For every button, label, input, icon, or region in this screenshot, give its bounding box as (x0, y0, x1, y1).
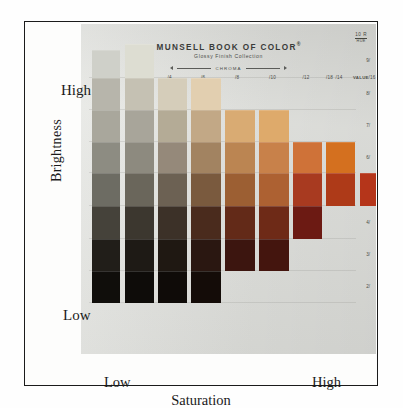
x-axis-title: Saturation (25, 392, 377, 408)
color-chip (191, 239, 221, 271)
color-chip (360, 173, 376, 206)
y-axis-title: Brightness (49, 119, 65, 182)
color-chip (158, 173, 187, 206)
color-chip (191, 78, 221, 110)
figure-frame: MUNSELL BOOK OF COLOR® Glossy Finish Col… (24, 21, 378, 386)
color-chip (125, 206, 154, 239)
color-chip (225, 173, 255, 206)
color-chip (259, 239, 289, 271)
color-chip (259, 173, 289, 206)
munsell-color-chart-figure: MUNSELL BOOK OF COLOR® Glossy Finish Col… (0, 0, 403, 408)
color-chip (125, 271, 154, 303)
color-chip (225, 206, 255, 239)
color-chip (92, 50, 120, 78)
color-chip (92, 206, 120, 239)
color-chip (259, 110, 289, 142)
color-chip (326, 142, 355, 173)
color-chip (158, 142, 187, 173)
color-chip (92, 239, 120, 271)
munsell-chart-page: MUNSELL BOOK OF COLOR® Glossy Finish Col… (81, 24, 376, 354)
color-chip (191, 271, 221, 303)
color-chip (293, 142, 322, 173)
color-chip (191, 206, 221, 239)
color-chip (293, 173, 322, 206)
color-chip (92, 110, 120, 142)
color-chip (225, 142, 255, 173)
color-chip (92, 173, 120, 206)
color-chip (158, 206, 187, 239)
color-chip (259, 142, 289, 173)
color-chip (125, 173, 154, 206)
color-chip-grid (81, 24, 376, 354)
color-chip (125, 78, 154, 110)
x-axis-high-label: High (312, 374, 341, 391)
y-axis-high-label: High (61, 82, 91, 99)
y-axis-low-label: Low (63, 307, 91, 324)
color-chip (293, 206, 322, 239)
color-chip (125, 44, 154, 78)
color-chip (158, 271, 187, 303)
color-chip (92, 271, 120, 303)
color-chip (125, 142, 154, 173)
color-chip (326, 173, 355, 206)
color-chip (92, 142, 120, 173)
color-chip (225, 239, 255, 271)
color-chip (158, 78, 187, 110)
color-chip (259, 206, 289, 239)
color-chip (191, 142, 221, 173)
color-chip (125, 239, 154, 271)
x-axis-low-label: Low (104, 374, 131, 391)
color-chip (158, 239, 187, 271)
color-chip (92, 78, 120, 110)
color-chip (191, 173, 221, 206)
color-chip (158, 110, 187, 142)
color-chip (225, 110, 255, 142)
color-chip (125, 110, 154, 142)
color-chip (191, 110, 221, 142)
